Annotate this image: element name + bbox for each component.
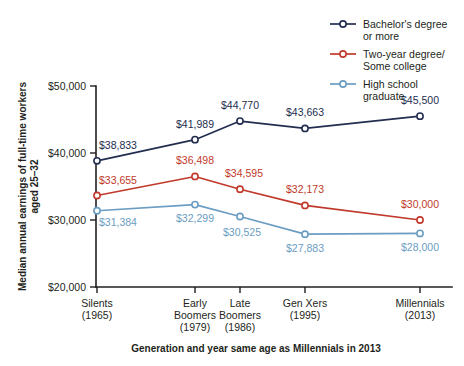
x-tick-label: Early [183,297,208,309]
data-point-label: $36,498 [176,154,214,166]
data-point-marker [417,230,423,236]
legend-swatch-marker [340,51,346,57]
legend-item-label[interactable]: Some college [363,60,427,72]
legend-swatch-marker [340,21,346,27]
x-tick-label: (1995) [290,309,320,321]
data-point-label: $32,173 [286,183,324,195]
data-point-label: $28,000 [401,241,439,253]
data-point-marker [237,118,243,124]
data-point-label: $38,833 [99,139,137,151]
x-tick-label: Silents [81,297,113,309]
x-axis-title: Generation and year same age as Millenni… [131,343,381,354]
x-tick-label: (1979) [180,321,210,333]
data-point-marker [94,208,100,214]
x-tick-label: Boomers [219,309,261,321]
data-point-label: $30,525 [223,226,261,238]
legend-item-label[interactable]: Bachelor's degree [363,18,447,30]
data-point-label: $44,770 [221,99,259,111]
x-tick-label: (1965) [82,309,112,321]
legend-item-label[interactable]: High school [363,78,418,90]
data-point-marker [302,125,308,131]
data-point-marker [94,192,100,198]
data-point-label: $32,299 [176,212,214,224]
x-tick-label: (1986) [225,321,255,333]
legend-item-label[interactable]: graduate [363,90,405,102]
data-point-marker [417,217,423,223]
y-tick-label: $40,000 [48,147,86,159]
data-point-marker [192,201,198,207]
data-point-marker [417,113,423,119]
data-point-label: $31,384 [99,216,137,228]
data-point-marker [94,158,100,164]
chart-container: $20,000$30,000$40,000$50,000 Silents(196… [0,0,464,366]
y-tick-label: $30,000 [48,214,86,226]
data-point-marker [302,202,308,208]
x-tick-label: Late [230,297,251,309]
data-point-marker [192,137,198,143]
data-point-marker [237,213,243,219]
y-tick-label: $20,000 [48,281,86,293]
data-point-label: $34,595 [225,167,263,179]
data-point-label: $30,000 [401,198,439,210]
x-tick-label: Gen Xers [283,297,327,309]
data-point-label: $27,883 [286,242,324,254]
data-point-marker [192,173,198,179]
data-point-label: $33,655 [99,174,137,186]
x-tick-label: (2013) [405,309,435,321]
legend-item-label[interactable]: Two-year degree/ [363,48,445,60]
x-tick-label: Millennials [395,297,444,309]
data-point-label: $41,989 [176,118,214,130]
line-chart: $20,000$30,000$40,000$50,000 Silents(196… [0,0,464,366]
data-point-label: $45,500 [401,94,439,106]
data-point-marker [302,231,308,237]
data-point-marker [237,186,243,192]
legend-swatch-marker [340,81,346,87]
y-tick-label: $50,000 [48,80,86,92]
legend-item-label[interactable]: or more [363,30,399,42]
x-tick-label: Boomers [174,309,216,321]
data-point-label: $43,663 [286,106,324,118]
